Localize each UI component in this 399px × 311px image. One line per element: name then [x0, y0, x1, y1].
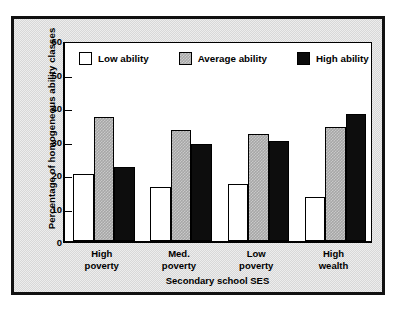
- legend-swatch-gray-icon: [179, 52, 192, 65]
- bar-low-group-0: [73, 174, 94, 241]
- y-tick-label-40: 40: [36, 103, 62, 114]
- legend-swatch-white-icon: [79, 52, 92, 65]
- bar-high-group-2: [269, 141, 290, 242]
- y-tick-label-0: 0: [36, 237, 62, 248]
- chart-legend: Low abilityAverage abilityHigh ability: [79, 52, 369, 65]
- x-category-label-3: High wealth: [294, 248, 374, 271]
- bar-avg-group-3: [325, 127, 346, 241]
- y-tick-label-10: 10: [36, 204, 62, 215]
- legend-label-0: Low ability: [98, 53, 149, 64]
- figure-frame: Percentage of homogeneous ability classe…: [11, 16, 385, 295]
- y-tick-label-60: 60: [36, 36, 62, 47]
- legend-entry-0: Low ability: [79, 52, 149, 65]
- bar-low-group-1: [150, 187, 171, 241]
- bar-avg-group-2: [248, 134, 269, 241]
- legend-label-2: High ability: [316, 53, 369, 64]
- y-tick-10: [65, 211, 72, 212]
- y-tick-30: [65, 144, 72, 145]
- bar-high-group-3: [346, 114, 367, 241]
- bar-low-group-2: [228, 184, 249, 241]
- bar-low-group-3: [305, 197, 326, 241]
- y-axis-title: Percentage of homogeneous ability classe…: [46, 24, 57, 234]
- legend-entry-2: High ability: [297, 52, 369, 65]
- y-tick-50: [65, 77, 72, 78]
- bar-avg-group-0: [94, 117, 115, 241]
- x-axis-title: Secondary school SES: [63, 275, 372, 286]
- x-category-label-0: High poverty: [62, 248, 142, 271]
- x-category-label-1: Med. poverty: [139, 248, 219, 271]
- x-category-label-2: Low poverty: [216, 248, 296, 271]
- y-tick-20: [65, 177, 72, 178]
- y-tick-label-50: 50: [36, 70, 62, 81]
- y-tick-40: [65, 110, 72, 111]
- plot-area: 0102030405060 Low abilityAverage ability…: [63, 42, 372, 243]
- legend-entry-1: Average ability: [179, 52, 267, 65]
- y-tick-label-20: 20: [36, 170, 62, 181]
- y-tick-label-30: 30: [36, 137, 62, 148]
- legend-label-1: Average ability: [198, 53, 267, 64]
- chart-screenshot: Percentage of homogeneous ability classe…: [0, 0, 399, 311]
- bar-high-group-1: [191, 144, 212, 241]
- bar-high-group-0: [114, 167, 135, 241]
- legend-swatch-black-icon: [297, 52, 310, 65]
- bar-avg-group-1: [171, 130, 192, 241]
